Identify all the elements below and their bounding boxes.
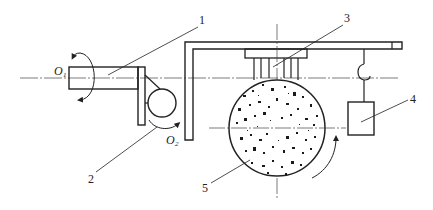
label-part-1: 1 xyxy=(199,13,205,27)
label-axis-o1-sub: 1 xyxy=(63,71,67,79)
rotation-arrow-o2-icon xyxy=(149,120,178,129)
small-wheel-part-2 xyxy=(148,89,176,117)
label-part-2: 2 xyxy=(88,172,94,186)
diagram-canvas: 1 2 3 4 5 O 1 O 2 xyxy=(0,0,433,210)
weight-part-4 xyxy=(348,102,374,135)
rotation-arrow-o1-icon xyxy=(73,53,94,100)
label-part-4: 4 xyxy=(410,92,416,106)
label-axis-o2-sub: 2 xyxy=(175,140,179,148)
label-axis-o2: O xyxy=(166,133,175,147)
label-part-3: 3 xyxy=(344,11,350,25)
clamp-part-3 xyxy=(245,49,307,80)
hook xyxy=(358,49,370,102)
mechanism-diagram: 1 2 3 4 5 O 1 O 2 xyxy=(0,0,433,210)
label-part-5: 5 xyxy=(202,181,208,195)
label-axis-o1: O xyxy=(54,64,63,78)
